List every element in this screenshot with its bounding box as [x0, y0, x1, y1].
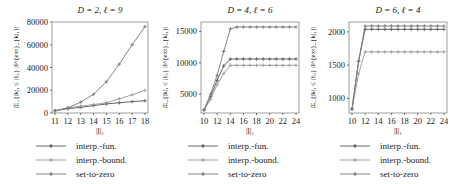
y-tick-label: 60000	[27, 40, 48, 50]
legend-marker-icon	[36, 141, 66, 151]
x-tick-label: 13	[76, 116, 85, 126]
series-line	[204, 27, 296, 110]
x-tick-label: 16	[239, 116, 248, 126]
legend-item: interp.-fun.	[36, 139, 127, 153]
series-line	[352, 29, 444, 109]
legend-label: interp.-bound.	[228, 153, 279, 167]
y-tick-label: 80000	[27, 17, 48, 27]
chart-1-legend: interp.-fun.interp.-bound.set-to-zero	[36, 139, 127, 181]
x-tick-label: 14	[226, 116, 235, 126]
legend-label: interp.-bound.	[380, 153, 431, 167]
y-tick-label: 5000	[180, 89, 197, 99]
x-tick-label: 17	[128, 116, 137, 126]
x-tick-label: 22	[279, 116, 288, 126]
y-tick-label: 40000	[27, 63, 48, 73]
chart-panel-2: D = 4, ℓ = 65000100001500010121416182022…	[152, 0, 304, 184]
x-tick-label: 18	[252, 116, 260, 126]
legend-label: interp.-fun.	[228, 139, 269, 153]
legend-label: interp.-fun.	[380, 139, 421, 153]
legend-item: interp.-bound.	[188, 153, 279, 167]
y-axis-label: |Σ_{|k|₁ ≤ |l|₁} |I^{ext}_{k|₁}|	[161, 27, 169, 109]
x-tick-label: 12	[213, 116, 222, 126]
legend-item: set-to-zero	[36, 167, 127, 181]
x-tick-label: 11	[51, 116, 59, 126]
x-axis-label: |l|₁	[246, 127, 254, 135]
legend-item: interp.-bound.	[340, 153, 431, 167]
legend-label: interp.-bound.	[76, 153, 127, 167]
x-tick-label: 12	[361, 116, 370, 126]
chart-3-legend: interp.-fun.interp.-bound.set-to-zero	[340, 139, 431, 181]
legend-marker-icon	[188, 141, 218, 151]
legend-marker-icon	[188, 169, 218, 179]
x-tick-label: 20	[413, 116, 422, 126]
x-tick-label: 18	[400, 116, 409, 126]
legend-label: set-to-zero	[380, 167, 418, 181]
chart-title: D = 6, ℓ = 4	[375, 5, 421, 15]
plot-frame	[52, 22, 148, 113]
chart-2-svg: D = 4, ℓ = 65000100001500010121416182022…	[152, 0, 304, 135]
x-axis-label: |l|₁	[96, 127, 104, 135]
legend-item: interp.-fun.	[188, 139, 279, 153]
x-tick-label: 18	[141, 116, 150, 126]
chart-panel-3: D = 6, ℓ = 41000150020001012141618202224…	[304, 0, 456, 184]
x-tick-label: 16	[115, 116, 124, 126]
legend-item: interp.-bound.	[36, 153, 127, 167]
chart-2-legend: interp.-fun.interp.-bound.set-to-zero	[188, 139, 279, 181]
x-tick-label: 22	[427, 116, 436, 126]
chart-title: D = 2, ℓ = 9	[77, 5, 123, 15]
legend-item: interp.-fun.	[340, 139, 431, 153]
legend-marker-icon	[36, 169, 66, 179]
x-tick-label: 24	[292, 116, 301, 126]
series-line	[55, 27, 145, 111]
x-tick-label: 10	[348, 116, 357, 126]
series-line	[352, 52, 444, 109]
legend-label: set-to-zero	[76, 167, 114, 181]
legend-marker-icon	[340, 169, 370, 179]
y-tick-label: 1500	[328, 60, 345, 70]
x-tick-label: 14	[89, 116, 98, 126]
legend-marker-icon	[36, 155, 66, 165]
legend-marker-icon	[188, 155, 218, 165]
x-tick-label: 15	[102, 116, 111, 126]
y-tick-label: 0	[44, 108, 48, 118]
y-axis-label: |Σ_{|k|₁ ≤ |l|₁} |I^{ext}_{k|₁}|	[12, 27, 20, 109]
x-tick-label: 14	[374, 116, 383, 126]
x-tick-label: 24	[440, 116, 449, 126]
y-tick-label: 1000	[328, 93, 345, 103]
y-tick-label: 10000	[176, 58, 197, 68]
chart-title: D = 4, ℓ = 6	[227, 5, 273, 15]
x-tick-label: 20	[265, 116, 274, 126]
chart-3-svg: D = 6, ℓ = 41000150020001012141618202224…	[304, 0, 457, 135]
series-line	[55, 101, 145, 111]
legend-marker-icon	[340, 155, 370, 165]
x-tick-label: 12	[64, 116, 73, 126]
chart-1-svg: D = 2, ℓ = 90200004000060000800001112131…	[0, 0, 152, 135]
legend-marker-icon	[340, 141, 370, 151]
y-tick-label: 2000	[328, 27, 345, 37]
legend-item: set-to-zero	[188, 167, 279, 181]
legend-label: set-to-zero	[228, 167, 266, 181]
y-tick-label: 20000	[27, 85, 48, 95]
y-tick-label: 15000	[176, 26, 197, 36]
chart-panel-1: D = 2, ℓ = 90200004000060000800001112131…	[0, 0, 152, 184]
x-tick-label: 16	[387, 116, 396, 126]
plot-frame	[201, 22, 299, 113]
legend-item: set-to-zero	[340, 167, 431, 181]
legend-label: interp.-fun.	[76, 139, 117, 153]
x-axis-label: |l|₁	[394, 127, 402, 135]
x-tick-label: 10	[200, 116, 209, 126]
y-axis-label: |Σ_{|k|₁ ≤ |l|₁} |I^{ext}_{k|₁}|	[309, 27, 317, 109]
series-line	[352, 26, 444, 109]
